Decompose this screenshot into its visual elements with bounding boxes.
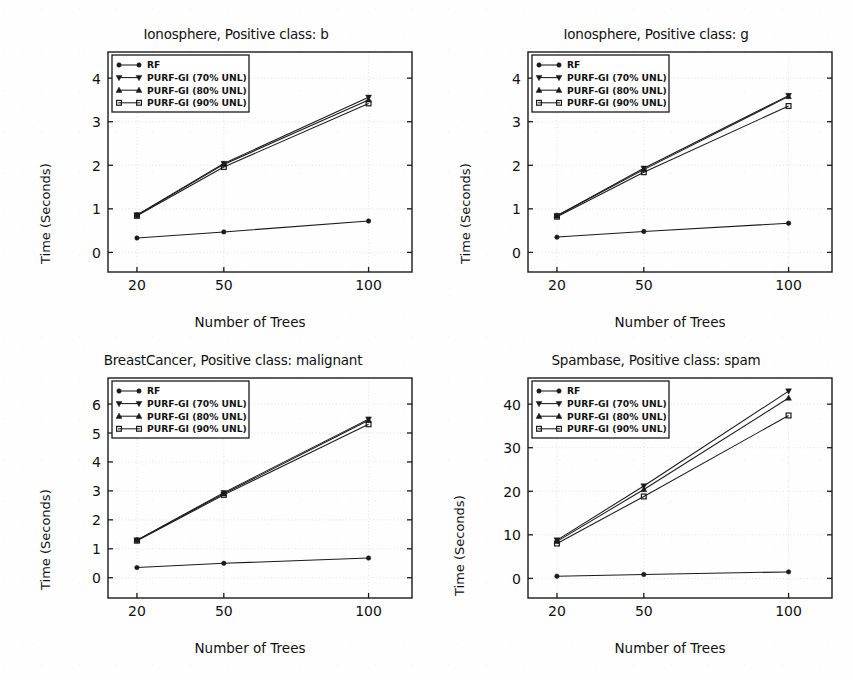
x-tick-label: 50: [215, 277, 233, 293]
x-tick-label: 50: [635, 277, 653, 293]
data-point-marker-triangle-down: [786, 389, 792, 394]
y-tick-label: 20: [503, 484, 521, 500]
legend-label-2: PURF-GI (80% UNL): [567, 411, 667, 422]
chart-svg-2: 01234562050100RFPURF-GI (70% UNL)PURF-GI…: [60, 372, 420, 634]
data-point-marker-circle: [137, 63, 141, 67]
y-tick-label: 30: [503, 440, 521, 456]
series-line-3: [557, 106, 789, 217]
chart-svg-3: 0102030402050100RFPURF-GI (70% UNL)PURF-…: [480, 372, 840, 634]
data-point-marker-circle: [366, 219, 370, 223]
y-tick-label: 3: [92, 483, 101, 499]
legend-label-1: PURF-GI (70% UNL): [147, 398, 247, 409]
figure-canvas: Ionosphere, Positive class: b Time (Seco…: [0, 0, 853, 680]
y-axis-label-1: Time (Seconds): [458, 163, 473, 264]
y-tick-label: 40: [503, 397, 521, 413]
plot-area-0: 012342050100RFPURF-GI (70% UNL)PURF-GI (…: [60, 46, 420, 308]
data-point-marker-circle: [537, 389, 541, 393]
series-line-0: [557, 572, 789, 576]
y-tick-label: 2: [512, 158, 521, 174]
x-axis-label-3: Number of Trees: [500, 640, 840, 656]
chart-panel-3: Spambase, Positive class: spam Time (Sec…: [440, 352, 840, 672]
y-tick-label: 2: [92, 158, 101, 174]
legend-label-1: PURF-GI (70% UNL): [567, 398, 667, 409]
x-tick-label: 20: [128, 603, 146, 619]
chart-panel-2: BreastCancer, Positive class: malignant …: [20, 352, 420, 672]
plot-area-2: 01234562050100RFPURF-GI (70% UNL)PURF-GI…: [60, 372, 420, 634]
series-line-0: [137, 558, 369, 568]
data-point-marker-circle: [555, 235, 559, 239]
data-point-marker-circle: [557, 389, 561, 393]
legend-label-2: PURF-GI (80% UNL): [567, 85, 667, 96]
data-point-marker-circle: [537, 63, 541, 67]
data-point-marker-circle: [135, 565, 139, 569]
x-tick-label: 50: [635, 603, 653, 619]
legend-label-0: RF: [567, 59, 580, 70]
y-tick-label: 4: [512, 71, 521, 87]
x-axis-label-1: Number of Trees: [500, 314, 840, 330]
legend-label-0: RF: [567, 385, 580, 396]
legend-label-1: PURF-GI (70% UNL): [147, 72, 247, 83]
legend-label-3: PURF-GI (90% UNL): [147, 97, 247, 108]
legend-label-3: PURF-GI (90% UNL): [567, 423, 667, 434]
y-tick-label: 10: [503, 527, 521, 543]
legend-label-2: PURF-GI (80% UNL): [147, 411, 247, 422]
chart-svg-1: 012342050100RFPURF-GI (70% UNL)PURF-GI (…: [480, 46, 840, 308]
data-point-marker-triangle-up: [786, 395, 792, 400]
x-tick-label: 100: [355, 603, 382, 619]
x-tick-label: 100: [355, 277, 382, 293]
data-point-marker-circle: [557, 63, 561, 67]
plot-area-1: 012342050100RFPURF-GI (70% UNL)PURF-GI (…: [480, 46, 840, 308]
series-line-3: [137, 103, 369, 215]
y-tick-label: 3: [92, 114, 101, 130]
data-point-marker-circle: [137, 389, 141, 393]
x-tick-label: 20: [548, 277, 566, 293]
x-tick-label: 100: [775, 277, 802, 293]
data-point-marker-circle: [135, 236, 139, 240]
data-point-marker-circle: [366, 556, 370, 560]
y-tick-label: 0: [512, 571, 521, 587]
legend-label-3: PURF-GI (90% UNL): [567, 97, 667, 108]
panel-title-3: Spambase, Positive class: spam: [480, 352, 832, 368]
y-axis-label-3: Time (Seconds): [452, 495, 467, 596]
data-point-marker-circle: [642, 229, 646, 233]
x-tick-label: 50: [215, 603, 233, 619]
series-line-2: [137, 100, 369, 215]
series-line-0: [137, 221, 369, 238]
series-line-2: [557, 96, 789, 215]
legend-label-3: PURF-GI (90% UNL): [147, 423, 247, 434]
chart-panel-0: Ionosphere, Positive class: b Time (Seco…: [20, 26, 420, 336]
y-tick-label: 6: [92, 397, 101, 413]
y-tick-label: 0: [512, 245, 521, 261]
y-tick-label: 2: [92, 512, 101, 528]
x-tick-label: 100: [775, 603, 802, 619]
legend-label-1: PURF-GI (70% UNL): [567, 72, 667, 83]
y-tick-label: 0: [92, 245, 101, 261]
y-tick-label: 5: [92, 426, 101, 442]
data-point-marker-circle: [222, 230, 226, 234]
y-tick-label: 1: [92, 201, 101, 217]
y-tick-label: 1: [92, 541, 101, 557]
y-tick-label: 4: [92, 454, 101, 470]
x-axis-label-2: Number of Trees: [80, 640, 420, 656]
data-point-marker-circle: [642, 572, 646, 576]
data-point-marker-circle: [117, 389, 121, 393]
legend-label-0: RF: [147, 385, 160, 396]
plot-area-3: 0102030402050100RFPURF-GI (70% UNL)PURF-…: [480, 372, 840, 634]
legend-label-0: RF: [147, 59, 160, 70]
data-point-marker-circle: [117, 63, 121, 67]
x-tick-label: 20: [128, 277, 146, 293]
panel-title-1: Ionosphere, Positive class: g: [480, 26, 832, 42]
x-tick-label: 20: [548, 603, 566, 619]
y-tick-label: 1: [512, 201, 521, 217]
data-point-marker-circle: [786, 570, 790, 574]
y-axis-label-0: Time (Seconds): [38, 163, 53, 264]
data-point-marker-circle: [222, 561, 226, 565]
y-tick-label: 3: [512, 114, 521, 130]
y-tick-label: 4: [92, 71, 101, 87]
chart-svg-0: 012342050100RFPURF-GI (70% UNL)PURF-GI (…: [60, 46, 420, 308]
series-line-0: [557, 223, 789, 237]
chart-panel-1: Ionosphere, Positive class: g Time (Seco…: [440, 26, 840, 336]
data-point-marker-circle: [786, 221, 790, 225]
legend-label-2: PURF-GI (80% UNL): [147, 85, 247, 96]
panel-title-2: BreastCancer, Positive class: malignant: [50, 352, 416, 368]
